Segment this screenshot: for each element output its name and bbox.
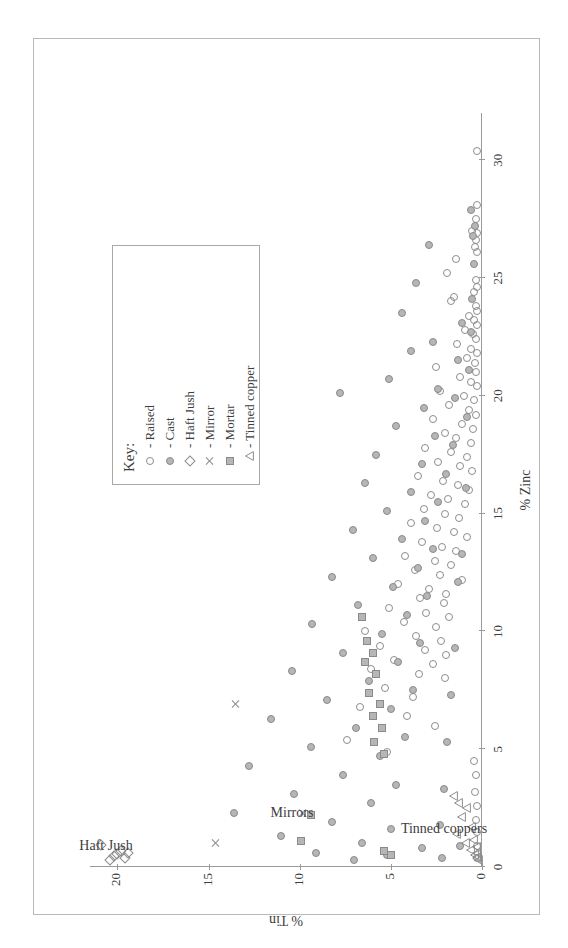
plot-area: 051015202530 05101520 Haft JushMirrorsTi… (90, 113, 482, 867)
y-tick-label: 10 (291, 873, 307, 901)
annotation-mirrors: Mirrors (271, 805, 314, 821)
legend-open-circle-icon (146, 457, 154, 465)
legend-item-label: - Mirror (202, 406, 218, 448)
rotated-chart-container: 051015202530 05101520 Haft JushMirrorsTi… (68, 78, 568, 948)
legend-filled-circle-icon (166, 457, 174, 465)
legend-title: Key: (121, 256, 138, 472)
legend-symbol-open-diamond-icon (180, 448, 200, 474)
legend-symbol-filled-circle-icon (160, 448, 180, 474)
legend-filled-square-icon (226, 457, 234, 465)
y-tick-label: 0 (473, 873, 489, 901)
legend-symbol-filled-square-icon (220, 448, 240, 474)
legend-item-label: - Haft Jush (182, 391, 198, 448)
legend-box: Key: - Raised- Cast- Haft Jush- Mirror- … (112, 245, 260, 485)
legend-symbol-cross-icon (200, 448, 220, 474)
legend-item-mirror[interactable]: - Mirror (200, 256, 220, 474)
x-tick-label: 30 (490, 145, 506, 175)
legend-item-tinned-copper[interactable]: - Tinned copper (240, 256, 260, 474)
legend-item-mortar[interactable]: - Mortar (220, 256, 240, 474)
point-tinned-copper (454, 803, 463, 813)
point-tinned-copper (474, 860, 483, 870)
legend-symbol-open-triangle-icon (240, 448, 260, 474)
y-axis-title: % Tin (269, 912, 303, 928)
x-tick-label: 10 (490, 616, 506, 646)
scatter-plot: 051015202530 05101520 Haft JushMirrorsTi… (68, 78, 568, 948)
y-tick-label: 15 (200, 873, 216, 901)
legend-items: - Raised- Cast- Haft Jush- Mirror- Morta… (140, 256, 260, 474)
x-axis-title: % Zinc (518, 113, 534, 867)
annotation-tinned-coppers: Tinned coppers (401, 821, 487, 837)
annotation-haft-jush: Haft Jush (80, 838, 133, 854)
legend-item-label: - Cast (162, 417, 178, 448)
series-tinned-copper (90, 113, 482, 867)
legend-open-triangle-icon (245, 456, 254, 466)
x-tick-label: 0 (490, 852, 506, 882)
x-tick-label: 25 (490, 263, 506, 293)
legend-item-raised[interactable]: - Raised (140, 256, 160, 474)
legend-open-diamond-icon (184, 455, 195, 466)
legend-item-haft-jush[interactable]: - Haft Jush (180, 256, 200, 474)
x-tick-label: 15 (490, 499, 506, 529)
legend-cross-icon (205, 456, 215, 466)
y-tick-label: 20 (108, 873, 124, 901)
y-tick-label: 5 (382, 873, 398, 901)
legend-item-label: - Mortar (222, 404, 238, 448)
legend-item-label: - Raised (142, 405, 158, 448)
legend-item-cast[interactable]: - Cast (160, 256, 180, 474)
legend-item-label: - Tinned copper (242, 366, 258, 448)
page-frame: 051015202530 05101520 Haft JushMirrorsTi… (33, 38, 540, 915)
x-tick-label: 5 (490, 734, 506, 764)
legend-symbol-open-circle-icon (140, 448, 160, 474)
x-tick-label: 20 (490, 381, 506, 411)
